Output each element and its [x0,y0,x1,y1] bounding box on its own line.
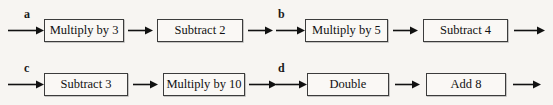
function-machine-diagram: a Multiply by 3 Subtract 2 [0,0,553,105]
operation-box[interactable]: Subtract 3 [44,73,128,96]
arrow-icon [514,25,545,36]
arrow-icon [249,79,277,90]
arrow-icon [393,25,418,36]
arrow-icon [8,79,44,90]
operation-box[interactable]: Subtract 2 [157,19,243,42]
operation-box[interactable]: Multiply by 3 [44,19,124,42]
arrow-icon [513,79,541,90]
arrow-icon [276,79,307,90]
flow-b: Multiply by 5 Subtract 4 [276,19,545,42]
operation-box[interactable]: Multiply by 10 [163,73,245,96]
arrow-icon [395,79,420,90]
flow-a: Multiply by 3 Subtract 2 [8,19,273,42]
arrow-icon [8,25,44,36]
operation-box[interactable]: Add 8 [426,73,506,96]
arrow-icon [133,79,158,90]
operation-box[interactable]: Subtract 4 [423,19,508,42]
flow-c: Subtract 3 Multiply by 10 [8,73,277,96]
operation-box[interactable]: Double [307,73,389,96]
arrow-icon [248,25,273,36]
arrow-icon [128,25,153,36]
operation-box[interactable]: Multiply by 5 [305,19,388,42]
flow-d: Double Add 8 [276,73,541,96]
arrow-icon [276,25,305,36]
